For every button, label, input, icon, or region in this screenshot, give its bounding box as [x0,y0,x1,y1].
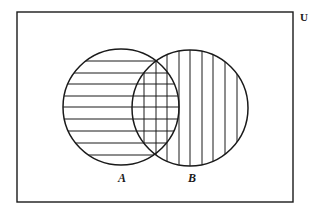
set-b-vertical-hatching [144,48,237,168]
set-a-horizontal-hatching [61,61,181,155]
venn-diagram: A B U [0,0,321,216]
set-a-label: A [117,171,126,185]
set-b-label: B [187,171,196,185]
universe-label: U [300,11,308,23]
